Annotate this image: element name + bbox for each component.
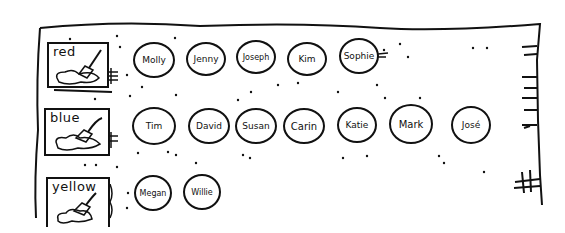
group-card-blue: blue [44, 108, 110, 156]
person-tim[interactable]: Tim [132, 107, 176, 145]
person-name: Willie [191, 188, 213, 197]
person-name: Kim [298, 54, 315, 64]
person-name: Megan [140, 189, 167, 198]
person-kim[interactable]: Kim [287, 42, 327, 76]
person-name: Carin [291, 121, 317, 132]
person-willie[interactable]: Willie [183, 174, 221, 210]
person-name: Molly [142, 55, 166, 65]
paint-brush-splash-icon [46, 110, 112, 158]
card-edge-lines [108, 184, 116, 224]
person-david[interactable]: David [188, 108, 230, 144]
person-megan[interactable]: Megan [134, 175, 172, 211]
person-name: David [196, 121, 222, 131]
person-carin[interactable]: Carin [283, 108, 325, 144]
sophie-dash-mark [378, 52, 390, 60]
person-katie[interactable]: Katie [337, 107, 377, 143]
card-edge-lines [108, 132, 120, 152]
person-name: Sophie [344, 51, 375, 61]
person-sophie[interactable]: Sophie [339, 38, 379, 74]
person-mark[interactable]: Mark [389, 104, 433, 144]
person-name: Susan [242, 121, 269, 131]
person-name: Tim [146, 121, 163, 131]
person-name: Katie [346, 120, 369, 130]
person-jenny[interactable]: Jenny [186, 42, 226, 76]
person-name: José [462, 120, 480, 130]
card-shadow [54, 86, 114, 96]
person-susan[interactable]: Susan [235, 108, 277, 144]
group-card-yellow: yellow [46, 177, 110, 227]
person-name: Joseph [243, 53, 270, 62]
paint-brush-splash-icon [49, 44, 111, 90]
person-name: Mark [399, 119, 424, 130]
sketch-canvas: red Molly Jenny Joseph Kim Sophie blue T… [0, 0, 565, 233]
person-joseph[interactable]: Joseph [236, 40, 276, 74]
person-jose[interactable]: José [451, 106, 491, 144]
card-edge-lines [108, 68, 120, 88]
paint-brush-splash-icon [48, 179, 112, 229]
person-molly[interactable]: Molly [133, 42, 175, 78]
person-name: Jenny [194, 54, 219, 64]
group-card-red: red [47, 42, 109, 88]
